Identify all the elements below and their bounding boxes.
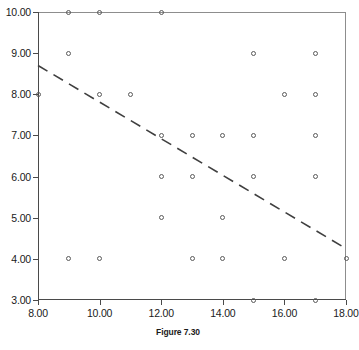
data-point bbox=[344, 256, 349, 261]
data-point bbox=[251, 133, 256, 138]
data-point bbox=[313, 298, 318, 303]
x-tick-label: 12.00 bbox=[149, 307, 174, 319]
data-point bbox=[282, 92, 287, 97]
scatter-plot: 3.004.005.006.007.008.009.0010.00 8.0010… bbox=[38, 12, 346, 300]
data-point bbox=[313, 174, 318, 179]
x-tick-label: 14.00 bbox=[210, 307, 235, 319]
data-point bbox=[159, 215, 164, 220]
y-tick-label: 10.00 bbox=[6, 6, 31, 18]
data-point bbox=[36, 92, 41, 97]
y-tick bbox=[33, 12, 38, 13]
x-tick bbox=[284, 300, 285, 305]
data-point bbox=[66, 51, 71, 56]
x-tick-label: 18.00 bbox=[333, 307, 358, 319]
y-tick-label: 4.00 bbox=[11, 253, 31, 265]
x-tick bbox=[38, 300, 39, 305]
y-tick-label: 5.00 bbox=[11, 212, 31, 224]
y-tick-label: 9.00 bbox=[11, 47, 31, 59]
x-tick bbox=[161, 300, 162, 305]
y-tick bbox=[33, 53, 38, 54]
data-point bbox=[220, 256, 225, 261]
y-tick bbox=[33, 135, 38, 136]
data-point bbox=[190, 256, 195, 261]
x-tick-label: 8.00 bbox=[28, 307, 48, 319]
data-point bbox=[159, 174, 164, 179]
data-point bbox=[97, 256, 102, 261]
y-tick-label: 8.00 bbox=[11, 88, 31, 100]
data-point bbox=[159, 10, 164, 15]
y-axis-line bbox=[38, 12, 39, 300]
data-point bbox=[251, 51, 256, 56]
data-point bbox=[159, 133, 164, 138]
x-tick-label: 10.00 bbox=[87, 307, 112, 319]
y-tick bbox=[33, 259, 38, 260]
y-tick bbox=[33, 177, 38, 178]
data-point bbox=[66, 256, 71, 261]
data-point bbox=[66, 10, 71, 15]
data-point bbox=[97, 10, 102, 15]
plot-frame-top bbox=[38, 12, 346, 13]
data-point bbox=[313, 51, 318, 56]
data-point bbox=[128, 92, 133, 97]
x-axis-line bbox=[38, 299, 346, 300]
data-point bbox=[251, 174, 256, 179]
y-tick-label: 3.00 bbox=[11, 294, 31, 306]
y-tick bbox=[33, 218, 38, 219]
data-point bbox=[282, 256, 287, 261]
y-tick-label: 7.00 bbox=[11, 129, 31, 141]
data-point bbox=[97, 92, 102, 97]
data-point bbox=[313, 133, 318, 138]
data-point bbox=[190, 133, 195, 138]
data-point bbox=[220, 133, 225, 138]
data-point bbox=[190, 174, 195, 179]
x-tick bbox=[100, 300, 101, 305]
x-tick-label: 16.00 bbox=[272, 307, 297, 319]
y-tick-label: 6.00 bbox=[11, 171, 31, 183]
data-point bbox=[313, 92, 318, 97]
x-tick bbox=[346, 300, 347, 305]
figure-caption: Figure 7.30 bbox=[0, 327, 356, 337]
data-point bbox=[251, 298, 256, 303]
x-tick bbox=[223, 300, 224, 305]
data-point bbox=[220, 215, 225, 220]
